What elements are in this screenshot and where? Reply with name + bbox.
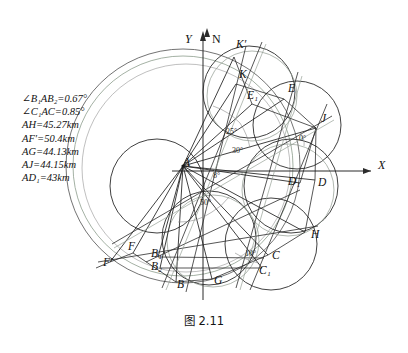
point-label-d1: D₁	[287, 175, 300, 187]
chord-D-H	[305, 180, 315, 232]
x-axis-arrowhead	[363, 168, 371, 174]
point-label-k: K	[238, 68, 248, 80]
point-label-h: H	[310, 228, 320, 240]
angle-label-a30: 30°	[232, 146, 243, 155]
angle-label-a8: 8°	[213, 171, 220, 180]
chord-J-D	[315, 128, 316, 180]
point-label-f: F	[127, 240, 136, 252]
point-label-c1: C₁	[259, 264, 271, 276]
point-label-a: A	[182, 156, 191, 168]
angle-arc-25	[213, 106, 240, 123]
transversal-J-C1	[250, 104, 327, 290]
point-label-b2: B₂	[151, 260, 162, 272]
transversal-K-G	[186, 46, 246, 292]
north-axis-label: N	[212, 32, 221, 46]
ray-A-G	[183, 166, 212, 279]
angle-label-a0: 0°	[299, 134, 306, 143]
point-label-b: B	[177, 278, 184, 290]
point-label-c: C	[272, 249, 280, 261]
legend-line-angle-b1ab2: ∠B₁AB₂=0.67°	[22, 92, 142, 105]
legend-line-angle-c1ac: ∠C₁AC=0.85°	[22, 105, 142, 118]
angle-label-a50: 50°	[200, 198, 211, 207]
legend-line-ag: AG=44.13km	[22, 145, 142, 158]
legend-line-aj: AJ=44.15km	[22, 158, 142, 171]
point-label-e: E	[287, 82, 295, 94]
ray-A-K2	[183, 57, 234, 166]
north-arrowhead	[204, 28, 210, 37]
circle-offset-right	[242, 144, 334, 236]
measurements-legend: ∠B₁AB₂=0.67° ∠C₁AC=0.85° AH=45.27km AF′=…	[22, 92, 142, 184]
legend-line-af-prime: AF′=50.4km	[22, 132, 142, 145]
legend-line-ad1: AD₁=43km	[22, 171, 142, 184]
point-label-e1: E₁	[246, 89, 258, 101]
figure-caption: 图 2.11	[0, 312, 408, 328]
point-label-g: G	[214, 274, 223, 286]
point-label-k2: K′	[235, 38, 247, 50]
figure-container: Y N X AK′KE₁EJD₁DHCC₁GBB₂B₁FF′ 25°30°8°5…	[0, 0, 408, 353]
ray-A-B1	[158, 166, 183, 257]
x-axis-label: X	[377, 158, 386, 172]
point-label-d: D	[317, 176, 327, 188]
point-label-j: J	[321, 112, 327, 124]
point-label-b1: B₁	[151, 247, 162, 259]
axis-label-group: Y N X	[185, 32, 386, 172]
medium-circle-group	[110, 46, 341, 290]
circle-lower-right	[225, 198, 317, 290]
angle-label-a25: 25°	[226, 127, 237, 136]
legend-line-ah: AH=45.27km	[22, 118, 142, 131]
point-label-fp: F′	[102, 256, 113, 268]
angle-label-a10: 10°	[245, 249, 256, 258]
y-axis-label: Y	[185, 32, 193, 46]
